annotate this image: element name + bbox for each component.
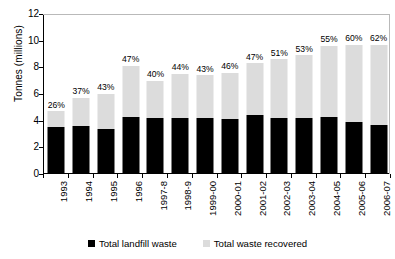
stacked-bar xyxy=(122,66,139,174)
bar-segment-landfill xyxy=(147,118,164,174)
stacked-bar xyxy=(271,59,288,174)
bar-segment-recovered xyxy=(48,111,65,127)
bar-slot: 40% xyxy=(143,14,168,174)
y-axis-tick-mark xyxy=(39,147,43,148)
x-axis-tick-label: 1998-9 xyxy=(183,181,193,211)
bar-segment-recovered xyxy=(122,66,139,117)
bar-segment-recovered xyxy=(320,46,337,117)
bar-slot: 37% xyxy=(69,14,94,174)
x-axis-tick-mark xyxy=(117,174,118,178)
bar-percent-label: 44% xyxy=(172,63,189,72)
stacked-bar xyxy=(221,73,238,174)
bar-percent-label: 47% xyxy=(122,55,139,64)
bar-segment-landfill xyxy=(271,118,288,174)
bar-segment-landfill xyxy=(73,126,90,174)
bar-segment-recovered xyxy=(147,81,164,118)
bar-slot: 44% xyxy=(168,14,193,174)
bar-segment-recovered xyxy=(345,45,362,122)
bar-slot: 60% xyxy=(341,14,366,174)
x-axis-tick-label: 1999-00 xyxy=(208,181,218,216)
x-axis-tick-label: 1996 xyxy=(134,181,144,202)
legend-label: Total waste recovered xyxy=(214,238,307,249)
x-axis-tick-mark xyxy=(43,174,44,178)
y-axis-tick-label: 10 xyxy=(0,36,39,46)
x-axis-tick-label: 1994 xyxy=(84,181,94,202)
bar-segment-landfill xyxy=(370,125,387,174)
stacked-bar xyxy=(197,75,214,174)
gray-square-icon xyxy=(203,240,210,247)
stacked-bar xyxy=(345,45,362,174)
bar-percent-label: 43% xyxy=(196,65,213,74)
y-axis-tick-mark xyxy=(39,14,43,15)
bar-segment-landfill xyxy=(320,117,337,174)
bar-slot: 47% xyxy=(242,14,267,174)
bar-segment-recovered xyxy=(97,94,114,129)
x-axis-tick-mark xyxy=(167,174,168,178)
bar-segment-landfill xyxy=(246,115,263,174)
y-axis-tick-label: 12 xyxy=(0,9,39,19)
bar-percent-label: 40% xyxy=(147,70,164,79)
bar-slot: 26% xyxy=(44,14,69,174)
bar-segment-landfill xyxy=(296,118,313,174)
x-axis-tick-label: 1995 xyxy=(109,181,119,202)
black-square-icon xyxy=(88,240,95,247)
x-axis-tick-label: 2000-01 xyxy=(233,181,243,216)
x-axis-tick-mark xyxy=(93,174,94,178)
x-axis-tick-mark xyxy=(291,174,292,178)
bar-segment-recovered xyxy=(172,74,189,118)
bar-segment-recovered xyxy=(370,45,387,125)
bar-slot: 43% xyxy=(193,14,218,174)
stacked-bar xyxy=(73,98,90,174)
x-axis-tick-mark xyxy=(217,174,218,178)
bar-slot: 51% xyxy=(267,14,292,174)
bar-slot: 46% xyxy=(218,14,243,174)
y-axis-tick-mark xyxy=(39,41,43,42)
bar-percent-label: 47% xyxy=(246,53,263,62)
bar-percent-label: 51% xyxy=(271,49,288,58)
bar-segment-landfill xyxy=(345,122,362,174)
x-axis-tick-mark xyxy=(390,174,391,178)
chart-legend: Total landfill wasteTotal waste recovere… xyxy=(0,238,395,249)
bar-percent-label: 43% xyxy=(97,83,114,92)
x-axis-tick-label: 2001-02 xyxy=(258,181,268,216)
x-axis-tick-mark xyxy=(266,174,267,178)
bar-segment-recovered xyxy=(246,63,263,115)
bar-segment-landfill xyxy=(122,117,139,174)
bar-percent-label: 55% xyxy=(320,35,337,44)
x-axis-tick-label: 2003-04 xyxy=(307,181,317,216)
bar-segment-recovered xyxy=(271,59,288,118)
stacked-bar xyxy=(97,94,114,174)
bar-segment-landfill xyxy=(172,118,189,174)
legend-entry[interactable]: Total landfill waste xyxy=(88,238,177,249)
bar-segment-landfill xyxy=(48,127,65,174)
bar-percent-label: 46% xyxy=(221,62,238,71)
stacked-bar xyxy=(48,111,65,174)
y-axis-tick-mark xyxy=(39,67,43,68)
x-axis-tick-label: 2004-05 xyxy=(332,181,342,216)
stacked-bar xyxy=(147,81,164,174)
x-axis-tick-mark xyxy=(365,174,366,178)
y-axis-tick-mark xyxy=(39,121,43,122)
bar-segment-recovered xyxy=(73,98,90,126)
stacked-bar xyxy=(296,55,313,174)
bar-slot: 62% xyxy=(366,14,391,174)
x-axis-tick-mark xyxy=(241,174,242,178)
legend-entry[interactable]: Total waste recovered xyxy=(203,238,307,249)
y-axis-tick-label: 4 xyxy=(0,116,39,126)
x-axis-tick-label: 1993 xyxy=(59,181,69,202)
bar-segment-landfill xyxy=(97,129,114,174)
stacked-bar xyxy=(172,74,189,174)
x-axis-tick-label: 2005-06 xyxy=(357,181,367,216)
bar-slot: 47% xyxy=(118,14,143,174)
x-axis-tick-label: 2002-03 xyxy=(282,181,292,216)
bar-segment-recovered xyxy=(296,55,313,118)
bar-segment-recovered xyxy=(221,73,238,120)
stacked-bar xyxy=(320,46,337,174)
stacked-bar xyxy=(246,63,263,174)
bar-percent-label: 37% xyxy=(73,87,90,96)
bar-percent-label: 53% xyxy=(296,45,313,54)
bar-percent-label: 60% xyxy=(345,34,362,43)
bar-segment-landfill xyxy=(221,119,238,174)
stacked-bar-chart: Tonnes (millions) 024681012 26%37%43%47%… xyxy=(0,0,395,259)
stacked-bar xyxy=(370,45,387,174)
